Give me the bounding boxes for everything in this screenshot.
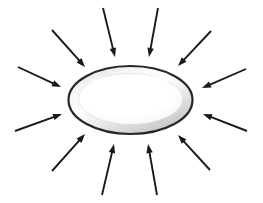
central-ellipse: [69, 66, 193, 134]
converging-arrows-diagram: [0, 0, 263, 203]
diagram-canvas: [0, 0, 263, 203]
